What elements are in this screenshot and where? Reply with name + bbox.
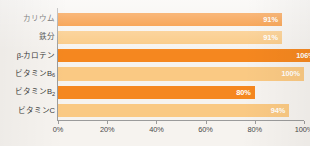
bar-value-label: 91% <box>263 31 278 44</box>
category-label: ビタミンB6 <box>0 65 55 83</box>
x-axis-tick-mark <box>255 121 256 124</box>
x-axis-tick-mark <box>156 121 157 124</box>
bar-value-label: 94% <box>271 104 286 117</box>
category-label: ビタミンC <box>0 102 55 120</box>
bar-row: 鉄分 91% <box>58 28 310 46</box>
category-label: β-カロテン <box>0 47 55 65</box>
x-axis-tick-label: 80% <box>238 125 272 134</box>
x-axis-line <box>57 120 304 121</box>
bar-row: カリウム 91% <box>58 10 310 28</box>
bar-value-label: 91% <box>263 13 278 26</box>
bar: 91% <box>58 31 282 44</box>
x-axis-tick-label: 60% <box>189 125 223 134</box>
bar-row: β-カロテン 106% <box>58 47 310 65</box>
bar-row: ビタミンB6 100% <box>58 65 310 83</box>
bar: 94% <box>58 104 289 117</box>
x-axis-tick-mark <box>206 121 207 124</box>
category-label: ビタミンB2 <box>0 83 55 101</box>
category-label: 鉄分 <box>0 28 55 46</box>
bar-value-label: 100% <box>281 67 300 80</box>
x-axis-tick-mark <box>304 121 305 124</box>
horizontal-bar-chart: カリウム 91% 鉄分 91% β-カロテン 106% ビタミンB6 100% … <box>0 0 310 146</box>
x-axis-tick-label: 20% <box>90 125 124 134</box>
bar: 106% <box>58 49 310 62</box>
bar: 80% <box>58 86 255 99</box>
x-axis-tick-mark <box>107 121 108 124</box>
bar-row: ビタミンB2 80% <box>58 83 310 101</box>
x-axis-tick-label: 0% <box>41 125 75 134</box>
category-label: カリウム <box>0 10 55 28</box>
bar-value-label: 106% <box>296 49 310 62</box>
x-axis-tick-mark <box>58 121 59 124</box>
bar-value-label: 80% <box>236 86 251 99</box>
plot-area: カリウム 91% 鉄分 91% β-カロテン 106% ビタミンB6 100% … <box>58 10 310 120</box>
x-axis-tick-label: 100% <box>287 125 310 134</box>
bar: 91% <box>58 13 282 26</box>
x-axis-tick-label: 40% <box>139 125 173 134</box>
bar: 100% <box>58 67 304 80</box>
bar-row: ビタミンC 94% <box>58 102 310 120</box>
